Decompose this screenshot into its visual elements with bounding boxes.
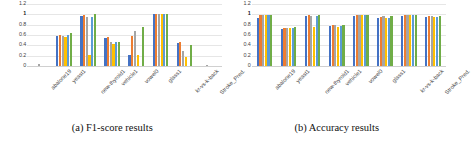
- bar: [415, 15, 417, 66]
- plot-area-a: 00.20.40.60.811.2 abalone19yeast1new-thy…: [0, 0, 225, 118]
- x-tick-label-a-0: abalone19: [49, 68, 72, 91]
- bar-group: [397, 4, 421, 66]
- bar-groups-b: [252, 4, 447, 66]
- x-tick-label-a-4: vowel0: [143, 68, 160, 85]
- bar-group: [148, 4, 172, 66]
- y-tick-label-a-5: 1: [23, 12, 26, 17]
- x-tick-label-b-7: Stroke_Pred.: [443, 68, 470, 95]
- bars-region-a: [27, 4, 222, 66]
- x-tick-label-b-6: kr-vs-k-back: [419, 68, 445, 94]
- bar: [185, 57, 187, 66]
- x-tick-label-a-1: yeast1: [71, 68, 87, 84]
- bar-group: [100, 4, 124, 66]
- bar-group: [277, 4, 301, 66]
- bar-group: [301, 4, 325, 66]
- panel-a: 00.20.40.60.811.2 abalone19yeast1new-thy…: [0, 0, 225, 153]
- x-axis-labels-a: abalone19yeast1new-thyroid1vehicle1vowel…: [27, 66, 222, 118]
- bar: [294, 27, 296, 66]
- y-tick-label-b-2: 0.4: [244, 43, 251, 48]
- bar-group: [196, 4, 220, 66]
- bar-group: [349, 4, 373, 66]
- x-tick-label-b-0: abalone19: [274, 68, 297, 91]
- bar: [390, 16, 392, 66]
- x-tick-label-a-5: glass1: [166, 68, 182, 84]
- y-tick-label-a-1: 0.2: [19, 53, 26, 58]
- y-axis-b: 00.20.40.60.811.2: [235, 4, 251, 66]
- bar: [142, 27, 144, 66]
- caption-a: (a) F1-score results: [0, 122, 225, 133]
- bar: [94, 14, 96, 66]
- y-tick-label-b-3: 0.6: [244, 32, 251, 37]
- bar: [118, 42, 120, 66]
- bar-group: [124, 4, 148, 66]
- caption-b: (b) Accuracy results: [225, 122, 450, 133]
- bar-group: [253, 4, 277, 66]
- y-tick-label-b-6: 1.2: [244, 1, 251, 6]
- bar: [366, 15, 368, 66]
- bar-group: [373, 4, 397, 66]
- x-tick-label-b-1: yeast1: [295, 68, 311, 84]
- y-tick-label-b-5: 1: [248, 12, 251, 17]
- bar: [318, 15, 320, 66]
- bar: [137, 55, 139, 66]
- bar: [342, 25, 344, 66]
- y-tick-label-a-3: 0.6: [19, 32, 26, 37]
- x-tick-label-b-5: glass1: [391, 68, 407, 84]
- x-tick-label-b-4: vowel0: [367, 68, 384, 85]
- bar-group: [172, 4, 196, 66]
- bar-group: [76, 4, 100, 66]
- y-tick-label-a-0: 0: [23, 63, 26, 68]
- y-tick-label-b-1: 0.2: [244, 53, 251, 58]
- bar-group: [28, 4, 52, 66]
- y-tick-label-a-2: 0.4: [19, 43, 26, 48]
- bar-group: [421, 4, 445, 66]
- x-axis-labels-b: abalone19yeast1new-thyroid1vehicle1vowel…: [252, 66, 447, 118]
- y-axis-a: 00.20.40.60.811.2: [10, 4, 26, 66]
- y-tick-label-a-6: 1.2: [19, 1, 26, 6]
- bar-groups-a: [27, 4, 222, 66]
- bar-group: [52, 4, 76, 66]
- bar: [190, 45, 192, 66]
- bar-group: [325, 4, 349, 66]
- bar: [166, 14, 168, 66]
- bar: [270, 15, 272, 66]
- y-tick-label-a-4: 0.8: [19, 22, 26, 27]
- y-tick-label-b-4: 0.8: [244, 22, 251, 27]
- bar: [70, 33, 72, 66]
- x-tick-label-a-6: kr-vs-k-back: [194, 68, 220, 94]
- panel-b: 00.20.40.60.811.2 abalone19yeast1new-thy…: [225, 0, 450, 153]
- plot-area-b: 00.20.40.60.811.2 abalone19yeast1new-thy…: [225, 0, 450, 118]
- bars-region-b: [252, 4, 447, 66]
- bar: [439, 16, 441, 66]
- y-tick-label-b-0: 0: [248, 63, 251, 68]
